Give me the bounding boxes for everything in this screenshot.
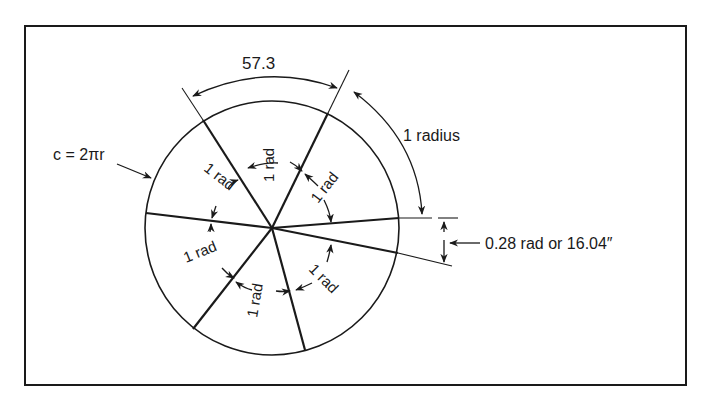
sector-label-lower-right: 1 rad <box>306 260 342 296</box>
remainder-label: 0.28 rad or 16.04″ <box>485 235 613 252</box>
sector-label-bottom: 1 rad <box>243 282 266 319</box>
degree-arc-dimension <box>193 77 337 96</box>
circumference-label: c = 2πr <box>53 146 105 163</box>
radius-label: 1 radius <box>403 127 460 144</box>
radius-arc-dimension <box>354 92 422 214</box>
degree-label: 57.3 <box>242 54 275 73</box>
circumference-leader <box>117 164 151 178</box>
sector-label-lower-left: 1 rad <box>181 237 219 266</box>
sector-label-upper-right: 1 rad <box>307 168 341 205</box>
diagram-frame <box>25 26 686 385</box>
remainder-dimension <box>444 222 480 262</box>
sector-label-top: 1 rad <box>260 148 277 182</box>
sector-label-upper-left: 1 rad <box>201 159 238 193</box>
radian-diagram: 57.3 1 radius c = 2πr 0.28 rad or 16.04″… <box>0 0 704 406</box>
